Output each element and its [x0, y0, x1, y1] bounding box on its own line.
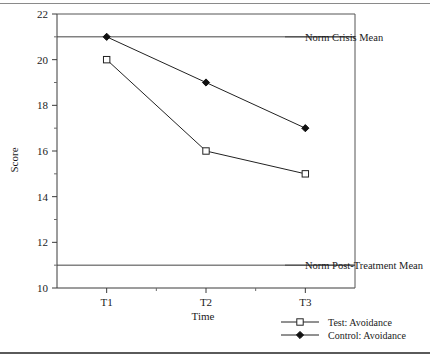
x-axis-title: Time: [192, 310, 215, 322]
legend-label-0: Test: Avoidance: [328, 317, 392, 328]
line-chart: 10121416182022 T1T2T3 Norm Crisis MeanNo…: [0, 0, 430, 363]
data-point: [103, 56, 109, 62]
legend-marker-0: [297, 319, 303, 325]
data-point: [302, 125, 309, 132]
data-point: [302, 171, 308, 177]
chart-legend: Test: AvoidanceControl: Avoidance: [281, 317, 406, 341]
y-tick-label: 22: [37, 8, 48, 20]
bottom-divider-rule: [0, 352, 430, 354]
y-axis-title: Score: [8, 147, 20, 172]
y-axis-ticks: [52, 14, 57, 288]
figure-container: 10121416182022 T1T2T3 Norm Crisis MeanNo…: [0, 0, 430, 363]
y-tick-label: 10: [37, 282, 49, 294]
series-line-0: [107, 60, 306, 174]
data-point: [103, 33, 110, 40]
x-tick-label: T1: [101, 296, 113, 308]
data-point: [203, 148, 209, 154]
y-tick-label: 12: [37, 236, 48, 248]
y-tick-label: 16: [37, 145, 49, 157]
legend-marker-1: [296, 331, 303, 338]
x-tick-label: T2: [200, 296, 212, 308]
y-tick-label: 20: [37, 54, 49, 66]
y-axis-tick-labels: 10121416182022: [37, 8, 49, 294]
legend-label-1: Control: Avoidance: [328, 330, 406, 341]
x-tick-label: T3: [299, 296, 312, 308]
y-tick-label: 14: [37, 191, 49, 203]
y-tick-label: 18: [37, 99, 49, 111]
reference-line-labels: Norm Crisis MeanNorm Post-Treatment Mean: [305, 32, 424, 271]
x-axis-tick-labels: T1T2T3: [101, 296, 312, 308]
data-point: [202, 79, 209, 86]
reference-line-label: Norm Post-Treatment Mean: [305, 260, 424, 271]
reference-line-label: Norm Crisis Mean: [305, 32, 384, 43]
data-series: [103, 33, 309, 177]
x-axis-ticks: [107, 288, 306, 293]
